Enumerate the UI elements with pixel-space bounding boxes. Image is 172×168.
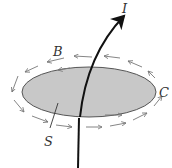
wire-lower — [78, 118, 79, 168]
label-current: I — [121, 1, 128, 16]
label-curve: C — [159, 85, 169, 100]
label-surface: S — [44, 134, 53, 149]
ampere-law-diagram: I B C S — [0, 0, 172, 168]
label-field: B — [52, 44, 63, 59]
